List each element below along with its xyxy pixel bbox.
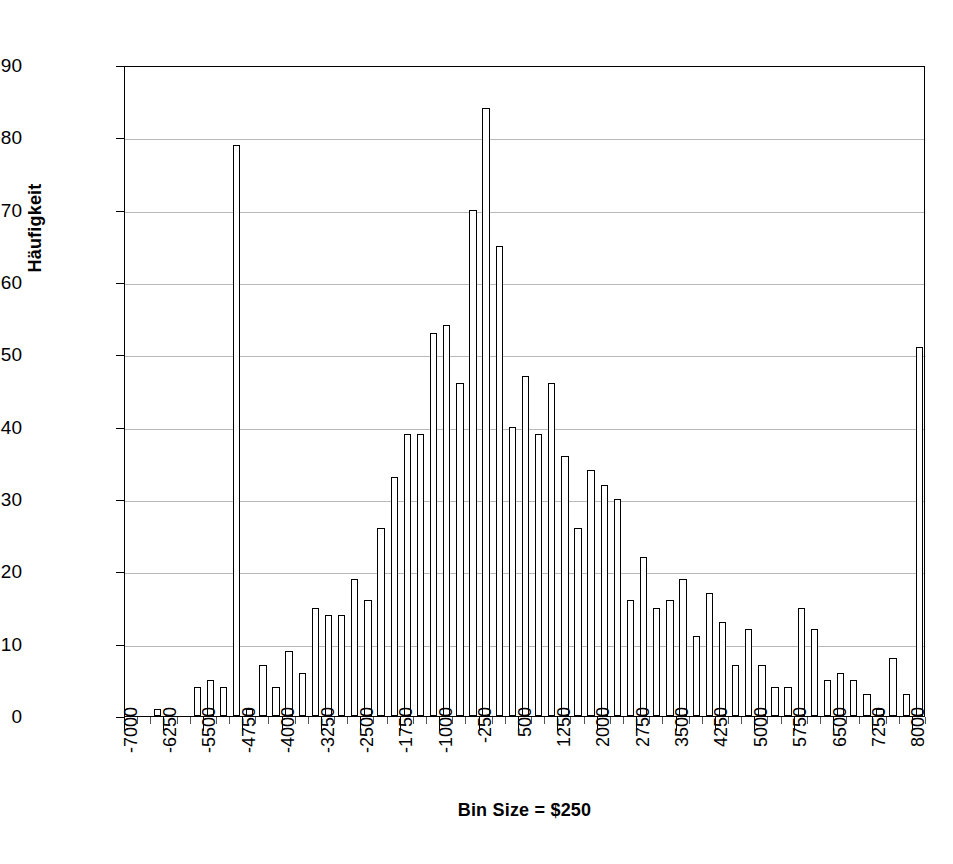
x-tick-label: 3500: [674, 707, 690, 777]
histogram-bar: [732, 665, 739, 716]
histogram-bar: [509, 427, 516, 716]
histogram-bar: [391, 477, 398, 716]
histogram-bar: [312, 608, 319, 717]
histogram-bar: [614, 499, 621, 716]
histogram-bar: [916, 347, 923, 716]
y-tick-label: 10: [0, 635, 22, 654]
histogram-bar: [640, 557, 647, 716]
histogram-bar: [561, 456, 568, 716]
y-tick-label: 30: [0, 490, 22, 509]
x-tick-label: -1750: [398, 707, 414, 777]
histogram-bar: [443, 325, 450, 716]
y-axis-title: Häufigkeit: [22, 128, 48, 328]
x-tick-label: 5750: [792, 707, 808, 777]
histogram-bar: [627, 600, 634, 716]
x-tick-label: 2750: [635, 707, 651, 777]
histogram-bar: [417, 434, 424, 716]
x-tick-label: -7000: [123, 707, 139, 777]
y-tick-label: 70: [0, 201, 22, 220]
y-tick-label: 80: [0, 128, 22, 147]
x-axis-title: Bin Size = $250: [124, 800, 925, 821]
x-tick-label: 2000: [595, 707, 611, 777]
histogram-bar: [771, 687, 778, 716]
x-tick-label: 7250: [871, 707, 887, 777]
x-tick-label: -6250: [162, 707, 178, 777]
histogram-bar: [325, 615, 332, 716]
histogram-bar: [351, 579, 358, 716]
x-tick-label: 8000: [910, 707, 926, 777]
plot-area: [124, 66, 925, 717]
histogram-bar: [233, 145, 240, 716]
histogram-bar: [299, 673, 306, 716]
histogram-bar: [693, 636, 700, 716]
histogram-bar: [259, 665, 266, 716]
y-tick-label: 60: [0, 273, 22, 292]
x-tick-label: 1250: [556, 707, 572, 777]
histogram-bar: [482, 108, 489, 716]
histogram-bar: [601, 485, 608, 716]
x-tick-label: 6500: [832, 707, 848, 777]
histogram-bar: [811, 629, 818, 716]
x-axis-tick-labels: -7000-6250-5500-4750-4000-3250-2500-1750…: [124, 734, 925, 804]
x-tick-label: -4000: [280, 707, 296, 777]
y-tick-label: 90: [0, 56, 22, 75]
histogram-bar: [377, 528, 384, 716]
histogram-bar: [469, 210, 476, 716]
x-tick-label: -250: [477, 707, 493, 777]
histogram-bar: [404, 434, 411, 716]
histogram-bar: [719, 622, 726, 716]
y-tick-label: 50: [0, 345, 22, 364]
histogram-bar: [850, 680, 857, 716]
histogram-bar: [522, 376, 529, 716]
x-tick-label: 5000: [753, 707, 769, 777]
x-tick-label: -4750: [241, 707, 257, 777]
x-tick-label: -3250: [320, 707, 336, 777]
histogram-bar: [338, 615, 345, 716]
histogram-bar: [574, 528, 581, 716]
histogram-chart: Häufigkeit 0102030405060708090 -7000-625…: [0, 0, 953, 864]
histogram-bar: [666, 600, 673, 716]
histogram-bar: [679, 579, 686, 716]
histogram-bar: [745, 629, 752, 716]
x-tick-label: 500: [517, 707, 533, 777]
histogram-bar: [706, 593, 713, 716]
histogram-bar: [798, 608, 805, 717]
bars-layer: [125, 67, 924, 716]
histogram-bar: [364, 600, 371, 716]
x-tick-label: -1000: [438, 707, 454, 777]
y-tick-label: 40: [0, 418, 22, 437]
histogram-bar: [587, 470, 594, 716]
histogram-bar: [496, 246, 503, 716]
y-tick-label: 0: [0, 707, 22, 726]
x-tick-label: 4250: [713, 707, 729, 777]
histogram-bar: [220, 687, 227, 716]
x-tick-label: -2500: [359, 707, 375, 777]
x-tick-label: -5500: [201, 707, 217, 777]
histogram-bar: [430, 333, 437, 716]
histogram-bar: [456, 383, 463, 716]
histogram-bar: [535, 434, 542, 716]
histogram-bar: [889, 658, 896, 716]
histogram-bar: [653, 608, 660, 717]
histogram-bar: [548, 383, 555, 716]
y-tick-label: 20: [0, 562, 22, 581]
